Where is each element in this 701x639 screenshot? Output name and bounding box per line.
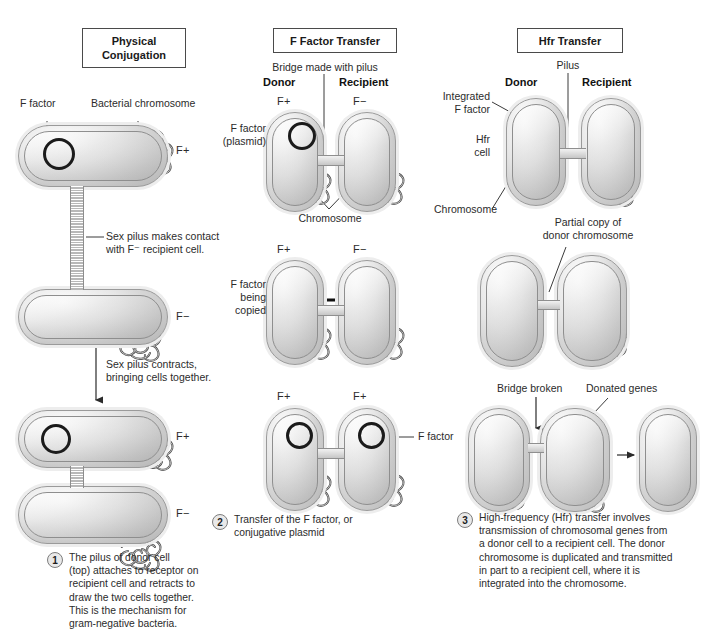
marker-f-minus-bottom: F− [176, 507, 190, 519]
cell-ff-row2-donor [266, 260, 324, 365]
panel-title-physical-conjugation-text: Physical Conjugation [89, 34, 179, 62]
label-integrated-f-factor: Integrated F factor [428, 90, 490, 116]
step-caption-1: 1 The pilus of donor cell (top) attaches… [47, 551, 227, 630]
label-chromosome-hfr: Chromosome [434, 203, 497, 216]
label-bridge-made-with-pilus: Bridge made with pilus [254, 61, 396, 74]
step-number-2: 2 [212, 514, 228, 530]
marker-row1-f-minus: F− [353, 95, 367, 107]
step-text-3: High-frequency (Hfr) transfer involves t… [479, 511, 672, 590]
label-donor: Donor [263, 76, 295, 89]
cell-hfr-row3-donor [468, 408, 530, 512]
label-recipient: Recipient [339, 76, 389, 89]
panel-title-hfr-transfer-text: Hfr Transfer [539, 34, 601, 48]
label-f-factor: F factor [20, 97, 56, 110]
cell-recipient-fminus-middle [18, 289, 168, 345]
f-factor-plasmid-ring [288, 122, 316, 150]
marker-f-plus-top: F+ [176, 144, 190, 156]
conjugation-bridge [560, 148, 586, 159]
marker-f-plus-bottom: F+ [176, 430, 190, 442]
label-f-factor-result: F factor [418, 430, 454, 443]
f-factor-plasmid-ring [41, 424, 71, 454]
cell-hfr-row2-donor [480, 255, 544, 367]
step-number-3: 3 [457, 512, 473, 528]
step-number-1: 1 [47, 552, 63, 568]
panel-title-f-factor-transfer-text: F Factor Transfer [290, 34, 380, 48]
label-f-factor-being-copied: F factor being copied [198, 278, 266, 317]
cell-donor-fplus-top [18, 125, 168, 187]
label-f-factor-plasmid: F factor (plasmid) [206, 122, 266, 148]
marker-row2-f-minus: F− [353, 243, 367, 255]
label-donor-hfr: Donor [505, 76, 537, 89]
conjugation-bridge [538, 300, 560, 310]
step-text-2: Transfer of the F factor, or conjugative… [234, 513, 353, 539]
conjugation-bridge-broken [528, 443, 544, 453]
marker-row3-f-plus-left: F+ [277, 390, 291, 402]
f-factor-plasmid-ring [358, 422, 385, 449]
cell-hfr-row1-donor [506, 98, 566, 206]
f-factor-plasmid-ring [43, 138, 75, 170]
figure-canvas: Physical Conjugation F factor Bacterial … [0, 0, 701, 639]
conjugation-bridge [318, 305, 344, 316]
sex-pilus-tube [70, 186, 84, 290]
cell-recipient-fminus-bottom [18, 486, 168, 544]
cell-hfr-row2-recipient [557, 255, 627, 367]
step-text-1: The pilus of donor cell (top) attaches t… [69, 551, 198, 630]
sex-pilus-contracted [70, 466, 84, 488]
label-partial-copy: Partial copy of donor chromosome [528, 216, 648, 242]
marker-row1-f-plus: F+ [277, 95, 291, 107]
label-sex-pilus-contracts: Sex pilus contracts, bringing cells toge… [106, 358, 232, 384]
label-bacterial-chromosome: Bacterial chromosome [91, 97, 195, 110]
cell-hfr-row3-recipient [540, 408, 610, 512]
cell-ff-row1-recipient [338, 112, 396, 212]
step-caption-2: 2 Transfer of the F factor, or conjugati… [212, 513, 402, 539]
label-bridge-broken: Bridge broken [497, 382, 562, 395]
marker-f-minus-middle: F− [176, 310, 190, 322]
cell-hfr-row1-recipient [581, 98, 641, 206]
cell-hfr-row3-result [639, 408, 697, 512]
label-recipient-hfr: Recipient [582, 76, 632, 89]
panel-title-hfr-transfer: Hfr Transfer [517, 28, 623, 53]
cell-ff-row2-recipient [338, 260, 396, 365]
step-caption-3: 3 High-frequency (Hfr) transfer involves… [457, 511, 689, 590]
label-chromosome-ff: Chromosome [290, 212, 370, 225]
marker-row2-f-plus: F+ [277, 243, 291, 255]
label-donated-genes: Donated genes [586, 382, 657, 395]
panel-title-physical-conjugation: Physical Conjugation [82, 28, 186, 68]
conjugation-bridge [318, 155, 344, 166]
f-factor-plasmid-ring [286, 422, 313, 449]
label-hfr-cell: Hfr cell [440, 133, 490, 159]
panel-title-f-factor-transfer: F Factor Transfer [273, 28, 397, 53]
marker-row3-f-plus-right: F+ [353, 390, 367, 402]
label-sex-pilus-contact: Sex pilus makes contact with F⁻ recipien… [106, 230, 226, 256]
label-pilus: Pilus [544, 59, 592, 72]
conjugation-bridge [318, 448, 344, 459]
